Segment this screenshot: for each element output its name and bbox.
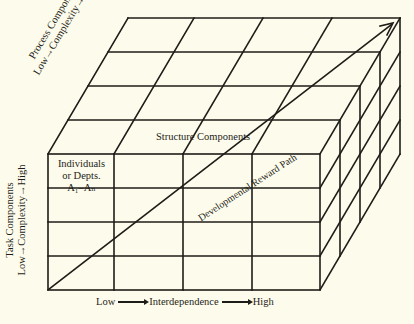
task-complexity-scale: Low→Complexity→High	[16, 140, 28, 300]
task-components-title: Task Components	[4, 140, 16, 300]
cell-label-line3: A₁–Aₙ	[49, 182, 114, 194]
cell-label-individuals: Individuals or Depts. A₁–Aₙ	[49, 158, 114, 194]
structure-components-label: Structure Components	[156, 131, 250, 143]
task-components-axis-label: Task Components Low→Complexity→High	[4, 140, 28, 300]
arrow-right-icon	[222, 301, 250, 302]
cell-label-line1: Individuals	[49, 158, 114, 170]
arrow-right-icon	[118, 301, 146, 302]
interdependence-axis-label: Low Interdependence High	[96, 296, 274, 308]
x-axis-title: Interdependence	[149, 296, 218, 308]
x-axis-high: High	[253, 296, 274, 308]
x-axis-low: Low	[96, 296, 115, 308]
cell-label-line2: or Depts.	[49, 170, 114, 182]
